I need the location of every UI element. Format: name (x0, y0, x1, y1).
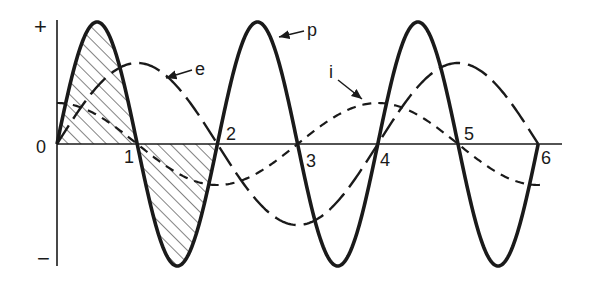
tick-label-4: 4 (380, 150, 390, 170)
p-label: p (307, 20, 317, 40)
e-pointer-arrow (166, 70, 192, 78)
tick-label-6: 6 (541, 148, 551, 168)
waveform-diagram: + − 0 1 2 3 4 5 6 e p i (0, 0, 590, 284)
p-pointer-arrow (279, 31, 304, 37)
minus-label: − (37, 246, 50, 271)
i-pointer-arrow (338, 80, 362, 99)
tick-label-2: 2 (226, 124, 236, 144)
tick-label-1: 1 (124, 147, 134, 167)
e-label: e (195, 59, 205, 79)
tick-label-5: 5 (464, 124, 474, 144)
plus-label: + (34, 14, 47, 39)
origin-label: 0 (36, 137, 46, 157)
i-label: i (329, 62, 333, 82)
tick-label-3: 3 (306, 151, 316, 171)
